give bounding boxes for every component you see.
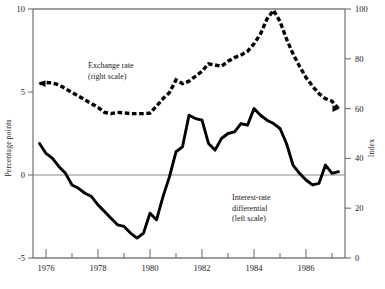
series-start-arrow-icon	[39, 80, 46, 87]
annotation-line: differential	[232, 204, 268, 213]
chart-figure: -50510 020406080100 19761978198019821984…	[0, 0, 385, 289]
series-interest-rate-differential	[40, 109, 339, 238]
y-axis-left-tick-label: 5	[21, 87, 25, 97]
y-axis-right-tick-label: 20	[355, 203, 364, 213]
annotation-line: (right scale)	[88, 72, 127, 81]
x-axis-tick-label: 1976	[38, 263, 55, 273]
chart-canvas: -50510 020406080100 19761978198019821984…	[0, 0, 385, 289]
x-axis-ticks: 197619781980198219841986	[38, 249, 333, 273]
x-axis-tick-label: 1984	[246, 263, 264, 273]
y-axis-right-tick-label: 80	[355, 54, 364, 64]
x-axis-tick-label: 1980	[142, 263, 159, 273]
y-axis-right-tick-label: 100	[355, 4, 368, 14]
y-axis-right-ticks: 020406080100	[345, 4, 368, 263]
annotation-line: (left scale)	[232, 214, 266, 223]
data-series-group	[39, 10, 340, 238]
y-axis-right-tick-label: 0	[355, 253, 359, 263]
plot-frame	[33, 9, 345, 258]
y-axis-right-tick-label: 40	[355, 153, 364, 163]
annotation-line: Interest-rate	[232, 193, 271, 202]
y-axis-right-tick-label: 60	[355, 104, 364, 114]
y-axis-left-tick-label: -5	[18, 253, 25, 263]
y-axis-right-title: Index	[367, 139, 376, 157]
series-exchange-rate	[40, 10, 339, 113]
y-axis-left-ticks: -50510	[17, 4, 34, 263]
x-axis-tick-label: 1978	[90, 263, 107, 273]
annotation-line: Exchange rate	[88, 61, 134, 70]
x-axis-tick-label: 1986	[298, 263, 315, 273]
series-annotations: Exchange rate(right scale)Interest-rated…	[88, 61, 271, 223]
x-axis-tick-label: 1982	[194, 263, 211, 273]
y-axis-left-tick-label: 0	[21, 170, 25, 180]
annotation-exchange-rate: Exchange rate(right scale)	[88, 61, 134, 81]
y-axis-left-title: Percentage points	[4, 119, 13, 176]
y-axis-left-tick-label: 10	[17, 4, 26, 14]
annotation-interest-rate-differential: Interest-ratedifferential(left scale)	[232, 193, 271, 223]
